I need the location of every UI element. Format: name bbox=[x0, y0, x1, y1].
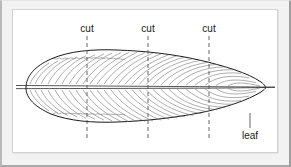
leaf-diagram-svg: cut cut cut leaf bbox=[13, 10, 279, 154]
leaf-veins-upper bbox=[30, 52, 260, 86]
cut-label-3: cut bbox=[202, 23, 216, 34]
leaf-veins-lower bbox=[30, 88, 260, 122]
figure-panel: cut cut cut leaf bbox=[12, 9, 278, 153]
cut-label-1: cut bbox=[80, 23, 94, 34]
leaf-midrib bbox=[16, 86, 275, 89]
cut-label-2: cut bbox=[141, 23, 155, 34]
leaf-label: leaf bbox=[242, 130, 258, 141]
leaf-diagram: cut cut cut leaf bbox=[13, 10, 279, 154]
screenshot-root: cut cut cut leaf bbox=[0, 0, 291, 167]
